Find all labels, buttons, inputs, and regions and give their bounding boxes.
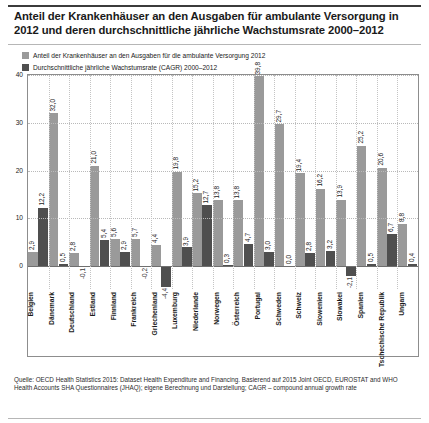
bar-group: 13,80,3 <box>213 75 234 289</box>
category-separator <box>172 75 173 289</box>
x-axis-category-label: Slowenien <box>316 292 337 326</box>
bar-value-label: 12,7 <box>202 191 212 203</box>
bar-group: 8,80,4 <box>397 75 418 289</box>
x-axis-category-label: Belgien <box>27 292 48 317</box>
bar-group: 13,9-2,1 <box>336 75 357 289</box>
category-separator <box>397 75 398 289</box>
bar-group: 4,4-4,4 <box>151 75 172 289</box>
category-separator <box>110 75 111 289</box>
category-separator <box>131 75 132 289</box>
category-separator <box>356 75 357 289</box>
category-separator <box>192 75 193 289</box>
y-axis-tick-label: 10 <box>16 214 23 221</box>
bar-value-label: 4,7 <box>244 233 254 242</box>
bar-group: 15,212,7 <box>192 75 213 289</box>
category-separator <box>274 75 275 289</box>
bar-cagr <box>120 252 130 266</box>
bar-share <box>377 168 387 266</box>
bar-value-label: 6,7 <box>387 223 397 232</box>
bar-value-label: 5,4 <box>100 229 110 238</box>
bar-cagr <box>38 208 48 266</box>
grid-line <box>28 75 418 76</box>
chart-legend: Anteil der Krankenhäuser an den Ausgaben… <box>22 50 265 74</box>
legend-item: Durchschnittliche jährliche Wachstumsrat… <box>22 62 265 73</box>
bar-value-label: -0,1 <box>79 268 89 279</box>
legend-label-share: Anteil der Krankenhäuser an den Ausgaben… <box>33 52 265 60</box>
legend-swatch-share <box>22 52 29 59</box>
bar-share <box>110 239 120 266</box>
x-axis-category-label: Dänemark <box>48 292 69 325</box>
bar-value-label: 25,2 <box>357 131 367 143</box>
bar-group: 39,83,0 <box>254 75 275 289</box>
source-note: Quelle: OECD Health Statistics 2015: Dat… <box>14 376 417 393</box>
zero-baseline <box>28 266 418 267</box>
bar-group: 25,20,5 <box>356 75 377 289</box>
category-separator <box>69 75 70 289</box>
bar-value-label: 32,0 <box>49 99 59 111</box>
bar-share <box>398 224 408 266</box>
legend-item: Anteil der Krankenhäuser an den Ausgaben… <box>22 50 265 61</box>
grid-line <box>28 123 418 124</box>
bar-share <box>69 253 79 266</box>
x-axis-category-label: Estland <box>89 292 110 317</box>
title-divider <box>8 44 421 45</box>
bar-group: 32,00,5 <box>49 75 70 289</box>
y-axis-tick-label: 0 <box>19 262 23 269</box>
bar-value-label: -0,2 <box>141 268 151 279</box>
bar-value-label: 21,0 <box>90 151 100 163</box>
bar-group: 20,66,7 <box>377 75 398 289</box>
bar-share <box>316 189 326 266</box>
x-axis-category-label: Norwegen <box>213 292 234 325</box>
bar-group: 2,912,2 <box>28 75 49 289</box>
bar-share <box>151 245 161 266</box>
bar-value-label: 0,5 <box>367 253 377 262</box>
bar-group: 2,8-0,1 <box>69 75 90 289</box>
bar-share <box>295 173 305 266</box>
category-separator <box>49 75 50 289</box>
page-title: Anteil der Krankenhäuser an den Ausgaben… <box>14 9 417 38</box>
bar-value-label: 20,6 <box>377 153 387 165</box>
category-separator <box>336 75 337 289</box>
category-separator <box>254 75 255 289</box>
bar-value-label: 3,0 <box>264 241 274 250</box>
bar-cagr <box>264 252 274 266</box>
y-axis-tick-label: 40 <box>16 71 23 78</box>
bar-value-label: 4,4 <box>151 234 161 243</box>
x-axis-category-label: Spanien <box>357 292 378 318</box>
legend-label-cagr: Durchschnittliche jährliche Wachstumsrat… <box>33 64 217 72</box>
bar-value-label: 2,9 <box>120 241 130 250</box>
bar-share <box>131 239 141 266</box>
bar-value-label: 5,6 <box>110 228 120 237</box>
x-axis-category-label: Frankreich <box>130 292 151 327</box>
x-axis-category-label: Slowakei <box>336 292 357 321</box>
bar-value-label: -2,1 <box>346 277 356 288</box>
bar-value-label: 3,2 <box>326 240 336 249</box>
x-axis-category-label: Finnland <box>110 292 131 320</box>
bar-value-label: 0,5 <box>59 253 69 262</box>
category-separator <box>315 75 316 289</box>
x-axis-category-label: Österreich <box>233 292 254 326</box>
bar-value-label: 2,8 <box>305 242 315 251</box>
category-separator <box>213 75 214 289</box>
bar-group: 19,83,9 <box>172 75 193 289</box>
legend-swatch-cagr <box>22 64 29 71</box>
bar-group: 16,23,2 <box>315 75 336 289</box>
bar-share <box>28 252 38 266</box>
bar-group: 13,84,7 <box>233 75 254 289</box>
bar-value-label: 12,2 <box>38 193 48 205</box>
bar-share <box>336 200 346 266</box>
bar-share <box>213 200 223 266</box>
bar-value-label: 0,3 <box>223 254 233 263</box>
bar-series-container: 2,912,232,00,52,8-0,121,05,45,62,95,7-0,… <box>28 75 418 289</box>
bar-cagr <box>346 266 356 276</box>
x-axis-category-label: Ungarn <box>398 292 419 316</box>
bar-value-label: 39,8 <box>254 62 264 74</box>
category-separator <box>295 75 296 289</box>
bar-share <box>90 166 100 266</box>
category-separator <box>233 75 234 289</box>
bar-share <box>275 124 285 266</box>
bar-value-label: 15,2 <box>192 179 202 191</box>
bar-value-label: 19,8 <box>172 157 182 169</box>
bar-value-label: 2,8 <box>69 242 79 251</box>
bar-value-label: 3,9 <box>182 237 192 246</box>
